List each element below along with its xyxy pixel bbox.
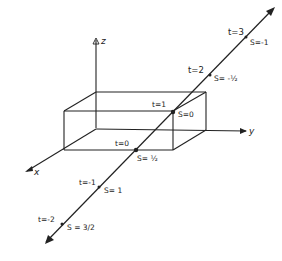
x-axis-arrow-icon [25, 166, 33, 172]
label-t0: t=0 [115, 139, 129, 148]
z-axis-label: z [100, 36, 106, 46]
rectangular-box [64, 92, 206, 150]
label-tm2: t=-2 [38, 215, 55, 224]
label-tm1: t=-1 [79, 178, 96, 187]
label-t2: t=2 [188, 65, 204, 75]
point-t2 [209, 74, 212, 77]
point-t3 [245, 36, 248, 39]
label-sm2: S = 3/2 [67, 223, 95, 232]
label-s3: S=-1 [250, 38, 269, 47]
parametric-line-diagram: z y x [0, 0, 282, 261]
point-t1 [171, 110, 175, 114]
diagram-canvas: z y x [0, 0, 282, 261]
y-axis: y [96, 126, 255, 136]
label-t1: t=1 [152, 100, 166, 109]
y-axis-line [96, 129, 246, 131]
line-arrow-down-icon [45, 235, 54, 244]
label-s0: S= ½ [137, 154, 158, 163]
label-t3: t=3 [228, 27, 244, 37]
y-axis-arrow-icon [240, 128, 247, 134]
label-s1: S=0 [178, 110, 194, 119]
label-s2: S= -½ [214, 74, 237, 83]
line-segment [46, 10, 272, 242]
y-axis-label: y [248, 126, 255, 136]
point-t0 [134, 148, 138, 152]
z-axis: z [93, 36, 106, 128]
parametric-line [45, 7, 275, 244]
point-tm1 [98, 186, 101, 189]
x-axis-label: x [33, 167, 40, 177]
label-sm1: S= 1 [104, 186, 122, 195]
point-tm2 [61, 223, 64, 226]
x-axis: x [25, 129, 96, 177]
